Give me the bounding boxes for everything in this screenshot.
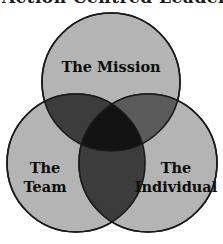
label-individual-line1: The	[161, 159, 192, 176]
label-team-line2: Team	[23, 178, 67, 195]
label-mission: The Mission	[61, 58, 161, 75]
venn-diagram: The Mission The Team The Individual	[0, 0, 223, 244]
label-team-line1: The	[30, 159, 61, 176]
label-individual-line2: Individual	[135, 178, 218, 195]
diagram-canvas: Action Centred Leadership	[0, 0, 223, 244]
